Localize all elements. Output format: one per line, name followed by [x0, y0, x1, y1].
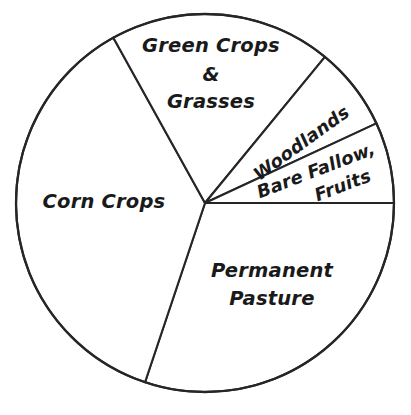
slice-label-green-crops-line2: & [202, 63, 219, 86]
slice-label-green-crops-line3: Grasses [167, 90, 255, 113]
pie-chart-figure: Green Crops & Grasses Woodlands Bare Fal… [0, 0, 411, 415]
slice-label-corn-crops: Corn Crops [43, 190, 166, 213]
slice-label-permanent-pasture-line1: Permanent [211, 259, 334, 282]
pie-chart-svg: Green Crops & Grasses Woodlands Bare Fal… [0, 0, 411, 415]
slice-label-permanent-pasture-line2: Pasture [229, 287, 314, 310]
slice-label-green-crops-line1: Green Crops [142, 34, 280, 57]
